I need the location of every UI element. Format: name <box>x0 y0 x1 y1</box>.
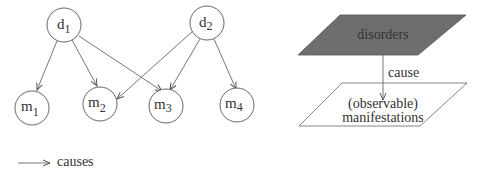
node-m1: m1 <box>15 91 49 125</box>
svg-text:manifestations: manifestations <box>342 110 424 125</box>
node-m4: m4 <box>220 88 254 122</box>
edge-d2-m4 <box>214 39 236 89</box>
node-m2: m2 <box>83 87 117 121</box>
diagram-canvas: d1 d2 m1 m2 m3 m4 causes disorders (obse… <box>0 0 477 170</box>
edge-d2-m2 <box>117 31 193 99</box>
node-m3: m3 <box>149 89 183 123</box>
svg-text:disorders: disorders <box>357 27 408 42</box>
edge-d1-m3 <box>79 36 162 91</box>
edge-d1-m2 <box>72 40 97 86</box>
disorders-plane: disorders <box>298 15 466 55</box>
edge-d2-m3 <box>170 39 200 90</box>
node-d1: d1 <box>47 8 81 42</box>
legend-label: causes <box>57 154 94 169</box>
edge-d1-m1 <box>37 41 57 90</box>
node-d2: d2 <box>190 6 224 40</box>
svg-text:cause: cause <box>388 65 419 80</box>
legend: causes <box>18 154 94 169</box>
